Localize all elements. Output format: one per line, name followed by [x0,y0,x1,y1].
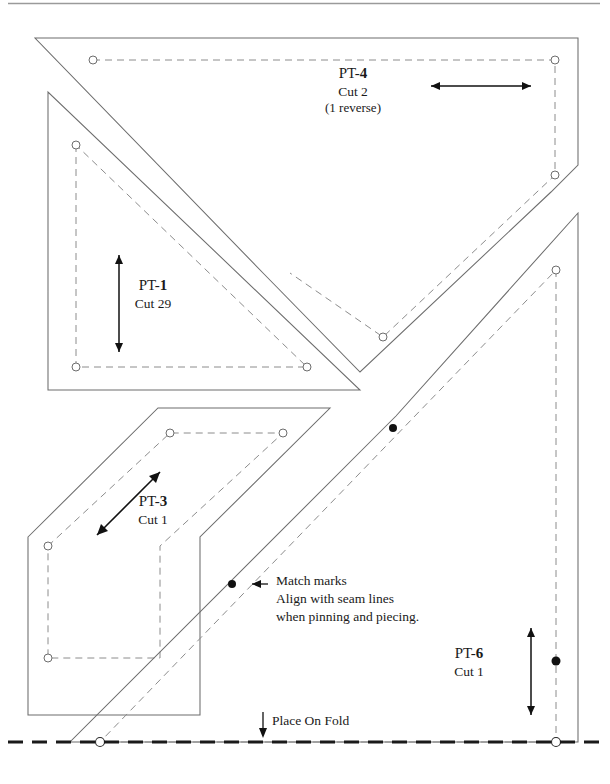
piece-pt3 [28,408,330,715]
match-marks-line-2: Align with seam lines [276,590,491,608]
match-mark-dot-upper [389,424,397,432]
pt1-seam-line [76,145,307,367]
pt3-seam-dot [279,429,287,437]
match-marks-line-3: when pinning and piecing. [276,608,491,626]
pt1-cut: Cut 29 [108,295,198,312]
match-mark-dot-lower [228,580,236,588]
match-marks-line-1: Match marks [276,572,491,590]
pattern-sheet: PT-4 Cut 2 (1 reverse) PT-1 Cut 29 PT-3 … [0,0,610,784]
pt6-seam-dot [552,266,560,274]
piece-pt1 [48,92,360,390]
pt1-seam-dot [72,363,80,371]
pt4-seam-dot [551,56,559,64]
pt1-seam-dot [72,141,80,149]
pt4-cut: Cut 2 [293,83,413,100]
pt3-cut: Cut 1 [108,511,198,528]
pt1-seam-dot [303,363,311,371]
pt4-note: (1 reverse) [293,100,413,117]
fold-pointer-arrow [259,712,267,738]
piece-label-pt4: PT-4 Cut 2 (1 reverse) [293,64,413,117]
piece-label-pt1: PT-1 Cut 29 [108,276,198,312]
pt3-seam-dot [166,429,174,437]
pt3-name: PT-3 [108,492,198,511]
piece-label-pt3: PT-3 Cut 1 [108,492,198,528]
match-mark-dot-pt6 [552,657,561,666]
match-mark-pointer-arrow [252,580,268,588]
place-on-fold-label: Place On Fold [272,713,349,729]
pt3-seam-line [48,433,283,658]
pt6-name: PT-6 [424,644,514,663]
pt1-cut-line [48,92,360,390]
pt4-grain-arrow [431,82,531,90]
pt4-name: PT-4 [293,64,413,83]
pt3-seam-dot [44,654,52,662]
pt3-cut-line [28,408,330,715]
pt1-name: PT-1 [108,276,198,295]
piece-label-pt6: PT-6 Cut 1 [424,644,514,680]
match-marks-note: Match marks Align with seam lines when p… [276,572,491,626]
pt4-seam-dot [89,56,97,64]
pt4-seam-dot [551,171,559,179]
pt6-seam-dot [552,738,561,747]
pt3-seam-dot [44,542,52,550]
pt6-cut: Cut 1 [424,663,514,680]
pt6-seam-dot [96,738,105,747]
pt4-seam-dot [379,333,387,341]
pattern-drawing [0,0,610,784]
pt6-grain-arrow [527,628,535,715]
